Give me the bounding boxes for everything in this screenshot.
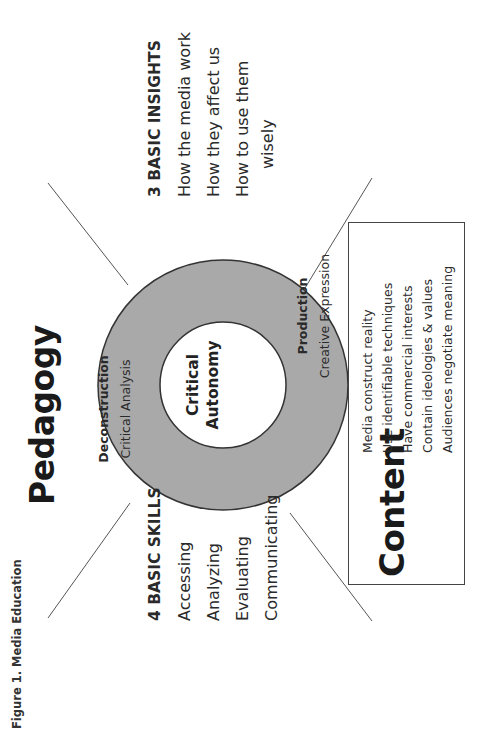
critical-autonomy-label: Critical Autonomy [183, 325, 223, 445]
inner-circle [160, 322, 286, 448]
content-item: Use identifiable techniques [378, 266, 398, 453]
basic-skills-list: 4 BASIC SKILLS Accessing Analyzing Evalu… [141, 487, 286, 621]
content-item: Media construct reality [358, 266, 378, 453]
connector-line-bottom-left [48, 503, 130, 618]
insight-item: How the media work [170, 32, 199, 197]
production-label: Production Creative Expression [292, 231, 336, 401]
deconstruction-subtitle: Critical Analysis [115, 339, 137, 479]
skill-item: Analyzing [199, 487, 228, 621]
insight-item: How to use them [228, 32, 257, 197]
media-education-diagram: Figure 1. Media Education Pedagogy 4 BAS… [0, 0, 495, 729]
skill-item: Communicating [257, 487, 286, 621]
skill-item: Accessing [170, 487, 199, 621]
center-line-2: Autonomy [203, 325, 223, 445]
production-title: Production [292, 231, 314, 401]
basic-insights-list: 3 BASIC INSIGHTS How the media work How … [141, 32, 279, 197]
deconstruction-title: Deconstruction [93, 339, 115, 479]
center-line-1: Critical [183, 325, 203, 445]
figure-caption: Figure 1. Media Education [10, 499, 24, 729]
production-subtitle: Creative Expression [314, 231, 336, 401]
skills-heading: 4 BASIC SKILLS [141, 487, 170, 621]
skill-item: Evaluating [228, 487, 257, 621]
pedagogy-title: Pedagogy [23, 265, 62, 505]
insights-heading: 3 BASIC INSIGHTS [141, 32, 170, 197]
insight-item: How they affect us [199, 32, 228, 197]
content-item: Have commercial interests [398, 266, 418, 453]
content-item: Contain ideologies & values [418, 266, 438, 453]
content-item: Audiences negotiate meaning [438, 266, 458, 453]
content-list: Media construct reality Use identifiable… [358, 266, 458, 453]
insight-item-continuation: wisely [257, 32, 279, 197]
deconstruction-label: Deconstruction Critical Analysis [93, 339, 137, 479]
